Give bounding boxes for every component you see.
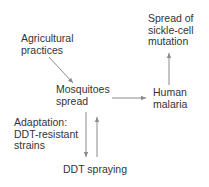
node-ddt-spraying: DDT spraying [63,164,127,176]
node-label-line: Agricultural [21,33,74,45]
node-label-line: spread [56,96,110,108]
node-label-line: malaria [153,99,187,111]
node-label-line: Spread of [148,13,194,25]
node-human-malaria: Human malaria [153,87,187,110]
node-label-line: DDT spraying [63,164,127,176]
node-sickle-cell-spread: Spread of sickle-cell mutation [148,13,194,48]
node-adaptation: Adaptation: DDT-resistant strains [14,117,78,152]
node-mosquitoes-spread: Mosquitoes spread [56,84,110,107]
node-label-line: practices [21,45,74,57]
node-agricultural-practices: Agricultural practices [21,33,74,56]
node-label-line: Mosquitoes [56,84,110,96]
node-label-line: strains [14,140,78,152]
node-label-line: Human [153,87,187,99]
arrow-agriculture-to-mosquitoes [49,57,73,83]
node-label-line: mutation [148,36,194,48]
node-label-line: Adaptation: [14,117,78,129]
